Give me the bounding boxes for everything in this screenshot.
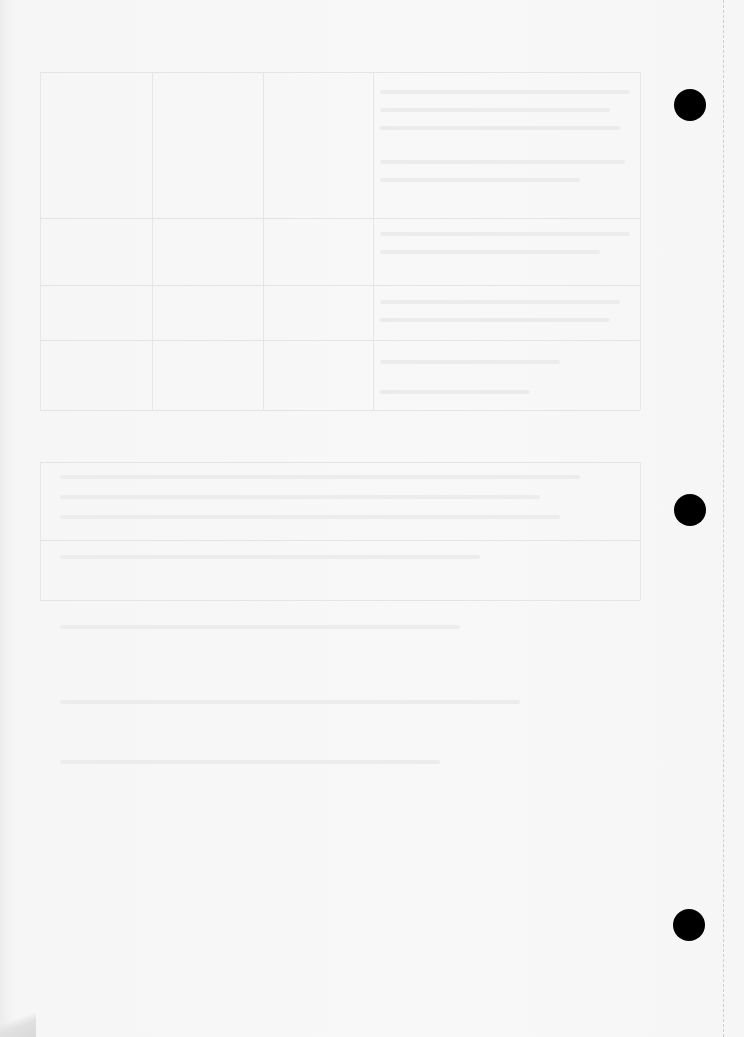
bleed-grid-line xyxy=(40,462,41,600)
scanned-page xyxy=(0,0,744,1037)
bleed-text xyxy=(380,250,600,254)
bleed-text xyxy=(60,555,480,559)
bleed-grid-line xyxy=(40,340,640,341)
bleed-text xyxy=(380,360,560,364)
bleed-grid-line xyxy=(373,72,374,410)
bleed-grid-line xyxy=(40,72,41,410)
bleed-grid-line xyxy=(640,462,641,600)
punch-hole-middle xyxy=(674,494,706,526)
bleed-grid-line xyxy=(40,72,640,73)
bleed-grid-line xyxy=(640,72,641,410)
punch-hole-bottom xyxy=(673,909,705,941)
bleed-text xyxy=(380,232,630,236)
bleed-text xyxy=(380,160,625,164)
bleed-text xyxy=(60,515,560,519)
bleed-grid-line xyxy=(40,285,640,286)
bleed-text xyxy=(60,495,540,499)
bleed-text xyxy=(380,90,630,94)
bleed-text xyxy=(60,700,520,704)
bleed-grid-line xyxy=(40,410,640,411)
bleed-text xyxy=(380,108,610,112)
bleed-text xyxy=(380,178,580,182)
bleed-text xyxy=(380,390,530,394)
bleed-grid-line xyxy=(40,462,640,463)
bleed-text xyxy=(60,625,460,629)
bleed-text xyxy=(60,760,440,764)
bleed-text xyxy=(380,126,620,130)
perforation-edge xyxy=(723,0,724,1037)
bleed-text xyxy=(60,475,580,479)
bleed-grid-line xyxy=(40,540,640,541)
bleed-text xyxy=(380,318,610,322)
bleed-grid-line xyxy=(40,600,640,601)
bleed-text xyxy=(380,300,620,304)
bleed-grid-line xyxy=(152,72,153,410)
bleed-grid-line xyxy=(263,72,264,410)
page-corner-shadow xyxy=(0,1007,36,1037)
bleed-grid-line xyxy=(40,218,640,219)
punch-hole-top xyxy=(674,89,706,121)
